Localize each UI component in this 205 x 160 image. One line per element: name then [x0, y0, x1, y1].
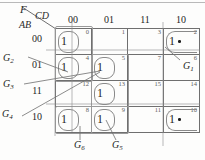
- column-header-1: 01: [91, 14, 127, 25]
- cell-dot-marker: [178, 40, 181, 43]
- kmap-cell[interactable]: 11: [127, 106, 163, 132]
- row-header-3: 10: [24, 111, 50, 122]
- page-top-rule: [0, 2, 205, 3]
- group-label-sub: 4: [9, 113, 13, 121]
- kmap-cell[interactable]: 1 5: [91, 54, 127, 80]
- kmap-cell[interactable]: 1 8: [55, 106, 91, 132]
- kmap-figure: F CD AB 00 01 11 10 00 01 11 10 1 0 1 3: [0, 0, 205, 160]
- group-label-sub: 6: [81, 144, 85, 152]
- cell-value: 1: [97, 112, 103, 126]
- group-label-G6: G6: [74, 139, 85, 152]
- cell-index: 10: [191, 106, 198, 114]
- group-label-sub: 3: [10, 83, 14, 91]
- group-label-G3: G3: [3, 78, 14, 91]
- cell-index: 6: [194, 54, 197, 62]
- grid-hline-4: [55, 132, 200, 133]
- cell-index: 13: [119, 80, 126, 88]
- group-label-G1: G1: [183, 60, 194, 73]
- cell-value: 1: [61, 112, 67, 126]
- kmap-cell[interactable]: 14: [163, 80, 199, 106]
- cell-value: 1: [61, 60, 67, 74]
- column-header-3: 10: [163, 14, 199, 25]
- column-var-label: CD: [35, 10, 49, 21]
- group-label-sub: 1: [190, 65, 194, 73]
- kmap-grid: 1 0 1 3 1 2 1 4 1 5 7 6: [55, 28, 200, 132]
- cell-index: 11: [155, 106, 161, 114]
- kmap-cell[interactable]: 1 9: [91, 106, 127, 132]
- cell-index: 4: [86, 54, 89, 62]
- kmap-cell[interactable]: 3: [127, 28, 163, 54]
- cell-index: 3: [158, 28, 161, 36]
- cell-value: 1: [169, 112, 175, 126]
- kmap-cell[interactable]: 1 2: [163, 28, 199, 54]
- cell-index: 2: [194, 28, 197, 36]
- kmap-cell[interactable]: 12: [55, 80, 91, 106]
- kmap-cell[interactable]: 1 13: [91, 80, 127, 106]
- cell-value: 1: [97, 60, 103, 74]
- cell-index: 7: [158, 54, 161, 62]
- row-header-1: 01: [24, 59, 50, 70]
- cell-value: 1: [61, 34, 67, 48]
- cell-index: 15: [155, 80, 162, 88]
- function-label: F: [20, 3, 27, 15]
- cell-index: 14: [191, 80, 198, 88]
- cell-index: 5: [122, 54, 125, 62]
- cell-index: 1: [122, 28, 125, 36]
- kmap-cell[interactable]: 1 4: [55, 54, 91, 80]
- cell-index: 12: [83, 80, 90, 88]
- group-label-G2: G2: [3, 52, 14, 65]
- cell-index: 9: [122, 106, 125, 114]
- group-label-G5: G5: [112, 139, 123, 152]
- cell-value: 1: [97, 86, 103, 100]
- row-header-2: 11: [24, 85, 50, 96]
- kmap-cell[interactable]: 15: [127, 80, 163, 106]
- row-header-0: 00: [24, 33, 50, 44]
- column-header-0: 00: [55, 14, 91, 25]
- kmap-cell[interactable]: 1: [91, 28, 127, 54]
- cell-index: 0: [86, 28, 89, 36]
- kmap-cell[interactable]: 1 0: [55, 28, 91, 54]
- column-header-2: 11: [127, 14, 163, 25]
- cell-dot-marker: [178, 118, 181, 121]
- cell-index: 8: [86, 106, 89, 114]
- row-var-label: AB: [19, 19, 31, 30]
- kmap-cell[interactable]: 7: [127, 54, 163, 80]
- kmap-cell[interactable]: 1 10: [163, 106, 199, 132]
- group-label-G4: G4: [2, 108, 13, 121]
- cell-value: 1: [169, 34, 175, 48]
- group-label-sub: 2: [10, 57, 14, 65]
- group-label-sub: 5: [119, 144, 123, 152]
